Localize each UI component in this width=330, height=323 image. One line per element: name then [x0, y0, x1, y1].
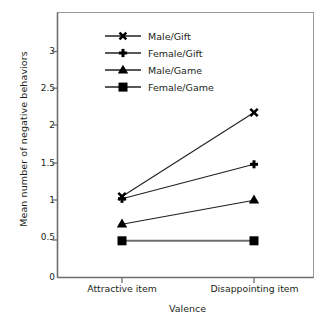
plot-canvas — [0, 0, 330, 323]
marker-female-game-attractive — [118, 236, 127, 245]
legend-marker-triangle-icon — [118, 65, 128, 74]
marker-female-game-disappointing — [250, 236, 259, 245]
series-line-male-gift — [122, 113, 254, 197]
series-line-male-game — [122, 200, 254, 224]
legend-marker-plus-icon — [119, 49, 127, 57]
marker-male-gift-disappointing — [250, 109, 257, 116]
chart-figure: Mean number of negative behaviors 3 2.5 … — [0, 0, 330, 323]
series-line-female-gift — [122, 164, 254, 199]
plot-frame — [58, 13, 314, 278]
marker-female-gift-disappointing — [250, 160, 258, 168]
legend-marker-square-icon — [119, 83, 128, 92]
marker-male-game-disappointing — [249, 195, 259, 204]
